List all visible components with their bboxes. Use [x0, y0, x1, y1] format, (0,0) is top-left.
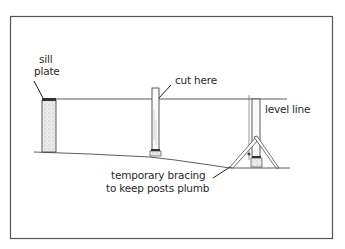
bracing-leader	[213, 167, 230, 178]
level-line-label: level line	[265, 104, 310, 115]
bracing-label-line2: to keep posts plumb	[106, 183, 209, 194]
masonry-pier	[42, 100, 56, 152]
sill-plate	[42, 98, 56, 101]
right-post	[252, 99, 260, 157]
diagram-drawing	[0, 0, 345, 249]
middle-post-footing	[150, 151, 161, 156]
bracing-label-line1: temporary bracing	[111, 170, 206, 181]
right-post-footing	[251, 158, 262, 167]
middle-post	[152, 88, 159, 151]
frame-border	[11, 17, 333, 239]
cut-here-label: cut here	[175, 75, 217, 86]
diagram-canvas: sill plate cut here level line temporary…	[0, 0, 345, 249]
sill-plate-label-line1: sill	[39, 54, 52, 65]
cut-here-leader	[159, 85, 171, 98]
sill-plate-leader	[34, 81, 43, 98]
sill-plate-label-line2: plate	[34, 66, 60, 77]
